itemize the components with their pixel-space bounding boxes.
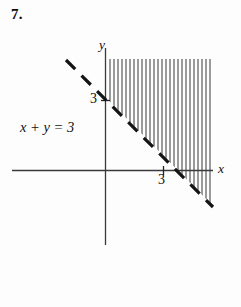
x-intercept-tick-label: 3 <box>158 172 165 188</box>
coordinate-axes <box>12 48 213 245</box>
x-axis-label: x <box>218 161 224 177</box>
y-intercept-tick-label: 3 <box>90 91 97 107</box>
y-axis-label: y <box>99 37 105 53</box>
graph-canvas <box>0 0 241 307</box>
boundary-line-dashed <box>66 60 213 207</box>
figure-container: 7. <box>0 0 241 307</box>
equation-label: x + y = 3 <box>20 119 74 136</box>
